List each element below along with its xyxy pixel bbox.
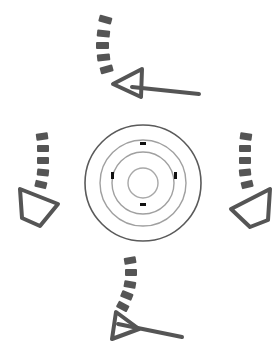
target-icon — [85, 125, 201, 241]
bottom-arrow-icon — [112, 256, 182, 339]
diagram-canvas — [0, 0, 278, 341]
diagram-svg — [0, 0, 278, 341]
tick-left — [111, 172, 114, 179]
right-arrow-icon — [231, 132, 270, 227]
tick-top — [140, 142, 146, 145]
tick-right — [174, 172, 177, 179]
left-arrow-icon — [20, 132, 58, 226]
tick-bottom — [140, 203, 146, 206]
top-arrow-icon — [96, 15, 199, 97]
